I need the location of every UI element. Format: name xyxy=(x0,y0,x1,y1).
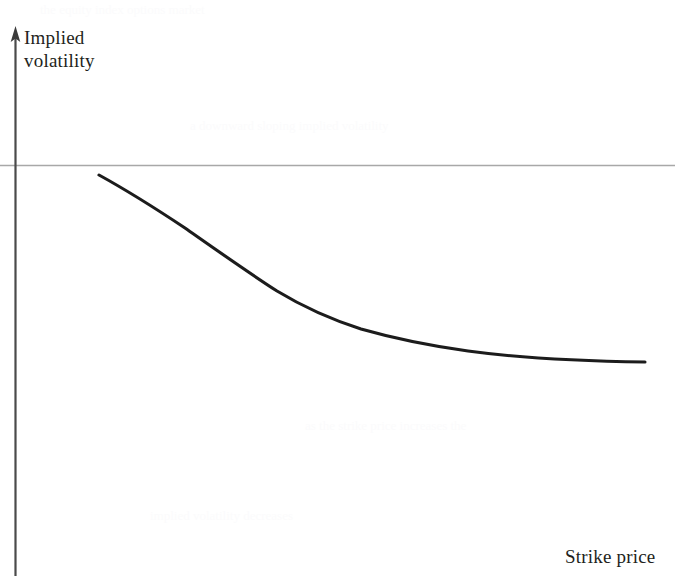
figure-canvas xyxy=(0,0,675,576)
y-axis-label: Implied volatility xyxy=(24,26,95,72)
implied-volatility-skew-curve xyxy=(99,175,645,362)
volatility-skew-figure: Implied volatility Strike price the equi… xyxy=(0,0,675,576)
x-axis-label: Strike price xyxy=(565,545,656,568)
